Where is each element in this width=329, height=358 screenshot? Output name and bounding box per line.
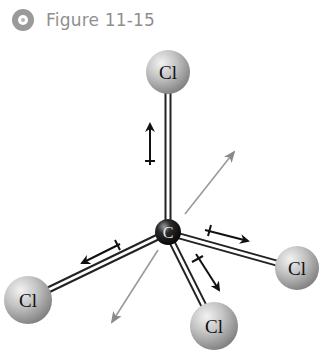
dipole-arrow-top xyxy=(145,124,155,165)
svg-text:Cl: Cl xyxy=(288,258,306,279)
c-atom-center: C xyxy=(155,219,181,245)
svg-text:C: C xyxy=(163,224,174,241)
svg-text:Cl: Cl xyxy=(205,316,223,337)
dipole-arrow-right xyxy=(205,225,248,241)
svg-text:Cl: Cl xyxy=(159,62,177,83)
cl-atom-right: Cl xyxy=(275,246,319,290)
cl-atom-left: Cl xyxy=(4,276,52,324)
cl-atom-bottom: Cl xyxy=(190,302,238,350)
svg-text:Cl: Cl xyxy=(19,290,37,311)
axis-arrow-up-right xyxy=(185,152,234,214)
cl-atom-top: Cl xyxy=(146,50,190,94)
axis-arrow-down-left xyxy=(112,250,158,322)
bonds xyxy=(44,92,280,310)
ccl4-molecule-diagram: Cl Cl Cl Cl C xyxy=(0,0,329,358)
